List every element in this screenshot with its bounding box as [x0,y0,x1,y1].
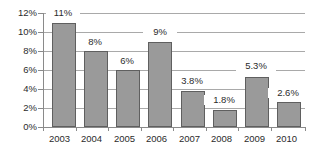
x-axis-label-2010: 2010 [265,133,308,144]
bar-2006[interactable] [148,42,172,128]
x-tick-6 [238,127,239,131]
bar-2003[interactable] [52,23,76,128]
y-tick-10 [38,32,43,33]
data-label-2009: 5.3% [236,61,276,71]
y-axis-label-10: 10% [1,27,37,37]
y-axis-label-4: 4% [1,84,37,94]
bar-2007[interactable] [181,91,205,127]
x-tick-0 [43,127,44,131]
data-label-2005: 6% [110,56,144,66]
y-tick-2 [38,108,43,109]
y-tick-8 [38,51,43,52]
data-label-2004: 8% [78,37,112,47]
y-tick-12 [38,13,43,14]
data-label-2010: 2.6% [268,88,308,98]
bar-2008[interactable] [213,110,237,127]
x-tick-8 [305,127,306,131]
y-axis-label-2: 2% [1,103,37,113]
data-label-2007: 3.8% [172,76,212,86]
gridline-12 [43,13,305,14]
x-tick-3 [141,127,142,131]
y-axis-label-8: 8% [1,46,37,56]
y-axis-label-6: 6% [1,65,37,75]
x-tick-2 [108,127,109,131]
x-tick-4 [173,127,174,131]
bar-2010[interactable] [277,102,301,127]
bar-2004[interactable] [84,51,108,127]
y-tick-4 [38,89,43,90]
gridline-8 [43,51,305,52]
y-axis-label-0: 0% [1,122,37,132]
bar-2009[interactable] [245,77,269,127]
x-axis-line [43,127,306,128]
data-label-2006: 9% [143,27,177,37]
data-label-2008: 1.8% [204,95,244,105]
x-tick-7 [271,127,272,131]
bar-2005[interactable] [116,70,140,127]
y-axis-line [43,13,44,128]
y-axis-label-12: 12% [1,8,37,18]
x-tick-1 [76,127,77,131]
bar-chart: 12% 10% 8% 6% 4% 2% 0% 11% 8% 6% 9% 3.8%… [0,0,319,159]
y-tick-6 [38,70,43,71]
data-label-2003: 11% [46,8,80,18]
x-tick-5 [206,127,207,131]
